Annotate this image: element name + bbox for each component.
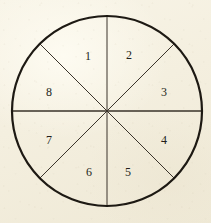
figure-canvas: 1 2 3 4 5 6 7 8 — [0, 0, 211, 223]
sector-label-5: 5 — [125, 165, 131, 179]
sector-label-4: 4 — [161, 133, 167, 147]
sector-label-2: 2 — [126, 48, 132, 62]
sector-label-6: 6 — [86, 165, 92, 179]
circle-sectors-diagram: 1 2 3 4 5 6 7 8 — [0, 0, 211, 223]
sector-label-7: 7 — [46, 133, 52, 147]
sector-label-3: 3 — [161, 85, 167, 99]
sector-label-8: 8 — [46, 85, 52, 99]
sector-label-1: 1 — [85, 49, 91, 63]
